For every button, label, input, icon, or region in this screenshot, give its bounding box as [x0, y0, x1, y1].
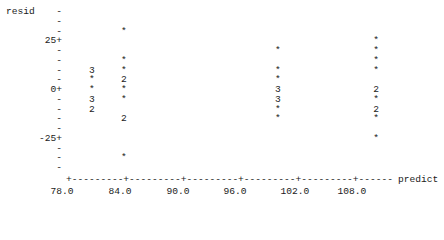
data-point: * [372, 114, 380, 124]
data-point: 2 [120, 114, 128, 124]
data-point: * [274, 46, 282, 56]
x-tick-label: 96.0 [215, 187, 255, 197]
data-point: * [372, 134, 380, 144]
x-tick-label: 102.0 [275, 187, 315, 197]
x-axis-line: +---------+---------+---------+---------… [66, 175, 393, 185]
x-tick-label: 108.0 [332, 187, 372, 197]
x-tick-label: 90.0 [158, 187, 198, 197]
x-axis-label: predict [398, 175, 438, 185]
data-point: * [120, 95, 128, 105]
data-point: * [120, 27, 128, 37]
x-tick-label: 84.0 [100, 187, 140, 197]
y-minor-tick: - [22, 163, 62, 173]
x-tick-label: 78.0 [42, 187, 82, 197]
data-point: * [120, 153, 128, 163]
data-point: * [274, 114, 282, 124]
data-point: 2 [88, 105, 96, 115]
data-point: * [372, 66, 380, 76]
